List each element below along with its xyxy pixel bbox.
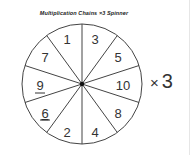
sector-label: 4	[91, 125, 98, 140]
multiplier-value: 3	[162, 70, 173, 92]
sector-label-underlined: 9	[36, 78, 43, 93]
sector-label: 10	[116, 78, 130, 93]
sector-label: 8	[114, 106, 121, 121]
multiplier-label: ×3	[150, 70, 173, 93]
sector-label-underlined: 6	[41, 106, 48, 121]
sector-label: 2	[63, 125, 70, 140]
times-symbol: ×	[150, 74, 159, 91]
page-edge-divider	[189, 0, 190, 155]
spinner-center-pin	[80, 82, 84, 86]
sector-label: 7	[41, 50, 48, 65]
sector-label: 1	[63, 32, 70, 47]
sector-label: 5	[114, 50, 121, 65]
sector-label: 3	[91, 32, 98, 47]
